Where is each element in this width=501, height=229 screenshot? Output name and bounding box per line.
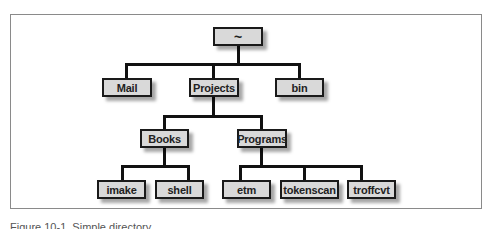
connector bbox=[212, 97, 215, 117]
node-shell: shell bbox=[155, 180, 204, 199]
node-mail: Mail bbox=[102, 78, 152, 97]
connector bbox=[163, 147, 166, 167]
node-projects: Projects bbox=[189, 78, 239, 97]
connector bbox=[260, 147, 263, 167]
connector bbox=[360, 165, 363, 180]
connector bbox=[303, 165, 306, 180]
node-bin: bin bbox=[275, 78, 324, 97]
node-books: Books bbox=[140, 129, 189, 148]
figure-caption: Figure 10-1. Simple directory bbox=[10, 221, 151, 229]
connector bbox=[239, 165, 242, 180]
node-tokenscan: tokenscan bbox=[280, 180, 339, 199]
connector bbox=[121, 165, 190, 168]
connector bbox=[163, 115, 263, 118]
connector bbox=[121, 165, 124, 180]
connector bbox=[163, 115, 166, 130]
node-troffcvt: troffcvt bbox=[347, 180, 396, 199]
node-root: ~ bbox=[213, 27, 263, 46]
connector bbox=[187, 165, 190, 180]
node-etm: etm bbox=[222, 180, 271, 199]
node-imake: imake bbox=[97, 180, 146, 199]
connector bbox=[260, 115, 263, 130]
connector bbox=[237, 46, 240, 64]
connector bbox=[239, 165, 363, 168]
node-programs: Programs bbox=[237, 129, 287, 148]
